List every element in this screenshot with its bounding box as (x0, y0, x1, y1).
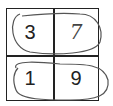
grid-cell-r2c2: 9 (53, 55, 99, 101)
grid-cell-r1c1: 3 (7, 9, 53, 55)
number-grid: 3 7 1 9 (6, 8, 99, 101)
grid-cell-r1c2: 7 (53, 9, 99, 55)
grid-cell-r2c1: 1 (7, 55, 53, 101)
